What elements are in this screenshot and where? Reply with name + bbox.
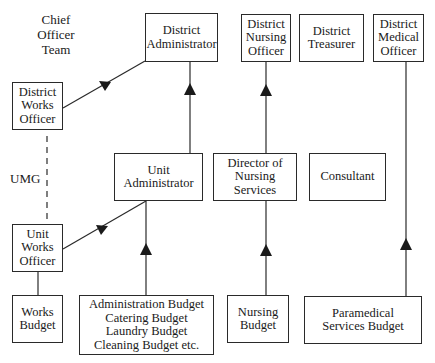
district-works-officer-box: District Works Officer — [12, 82, 63, 130]
unit-administrator-box: Unit Administrator — [114, 153, 203, 201]
unit-works-officer-box: Unit Works Officer — [12, 224, 63, 272]
arrow-icon — [260, 84, 272, 96]
box-label: Works Budget — [19, 306, 55, 333]
box-label: Administration Budget Catering Budget La… — [89, 298, 204, 352]
nursing-budget-box: Nursing Budget — [227, 295, 289, 343]
arrow-icon — [140, 243, 152, 255]
admin-budgets-box: Administration Budget Catering Budget La… — [79, 295, 214, 355]
district-administrator-box: District Administrator — [145, 13, 218, 62]
arrow-icon — [96, 225, 108, 235]
box-label: District Works Officer — [19, 86, 57, 127]
arrow-icon — [184, 83, 196, 95]
box-label: Paramedical Services Budget — [322, 307, 404, 334]
district-nursing-officer-box: District Nursing Officer — [241, 14, 291, 62]
paramedical-services-budget-box: Paramedical Services Budget — [304, 296, 422, 344]
box-label: District Medical Officer — [378, 18, 419, 59]
box-label: Nursing Budget — [238, 306, 278, 333]
works-budget-box: Works Budget — [12, 295, 63, 343]
umg-label: UMG — [10, 171, 40, 186]
district-treasurer-box: District Treasurer — [299, 14, 364, 62]
box-label: Unit Administrator — [123, 164, 193, 191]
arrow-icon — [260, 244, 272, 256]
box-label: Consultant — [320, 170, 374, 184]
consultant-box: Consultant — [309, 153, 386, 201]
box-label: District Administrator — [146, 24, 216, 51]
chief-officer-team-label: Chief Officer Team — [26, 12, 86, 57]
arrow-icon — [400, 238, 412, 250]
director-of-nursing-services-box: Director of Nursing Services — [213, 153, 297, 201]
box-label: District Treasurer — [308, 25, 355, 52]
box-label: District Nursing Officer — [246, 18, 286, 59]
district-medical-officer-box: District Medical Officer — [373, 14, 424, 62]
box-label: Unit Works Officer — [20, 228, 56, 269]
box-label: Director of Nursing Services — [227, 157, 282, 198]
